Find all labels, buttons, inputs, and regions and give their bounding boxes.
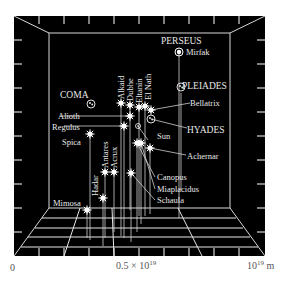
regulus-label: Regulus bbox=[52, 122, 80, 132]
bellatrix-label: Bellatrix bbox=[190, 98, 220, 108]
star-distance-diagram: PERSEUS Mirfak PLEIADES Bellatrix HYADES… bbox=[0, 0, 291, 287]
axis-label-half: 0.5 × 1019 bbox=[116, 259, 156, 271]
elnath-label: El Nath bbox=[143, 73, 153, 100]
coma-label: COMA bbox=[60, 90, 89, 100]
axis-zero-text: 0 bbox=[10, 262, 15, 273]
hadar-label: Hadar bbox=[90, 175, 100, 196]
axis-unit: m bbox=[264, 260, 274, 271]
axis-full-exponent: 19 bbox=[257, 259, 264, 267]
perseus-label: PERSEUS bbox=[161, 36, 202, 46]
axis-half-exponent: 19 bbox=[149, 259, 156, 267]
mimosa-label: Mimosa bbox=[53, 198, 81, 208]
mirfak-label: Mirfak bbox=[186, 47, 210, 57]
diagram-background bbox=[14, 16, 265, 256]
diagram-canvas: PERSEUS Mirfak PLEIADES Bellatrix HYADES… bbox=[0, 0, 291, 287]
axis-full-base: 10 bbox=[247, 260, 257, 271]
axis-label-full: 1019 m bbox=[247, 259, 274, 271]
alioth-label: Alioth bbox=[58, 111, 80, 121]
canopus-label: Canopus bbox=[157, 172, 187, 182]
sun-label: Sun bbox=[157, 131, 171, 141]
schaula-label: Schaula bbox=[157, 195, 184, 205]
pleiades-label: PLEIADES bbox=[182, 81, 227, 91]
axis-half-mantissa: 0.5 × 10 bbox=[116, 260, 149, 271]
spica-label: Spica bbox=[62, 137, 81, 147]
hyades-label: HYADES bbox=[187, 125, 224, 135]
miaplacidus-label: Miaplacidus bbox=[157, 184, 199, 194]
axis-label-zero: 0 bbox=[10, 262, 15, 273]
achernar-label: Achernar bbox=[187, 151, 219, 161]
acrux-label: Acrux bbox=[109, 146, 119, 168]
